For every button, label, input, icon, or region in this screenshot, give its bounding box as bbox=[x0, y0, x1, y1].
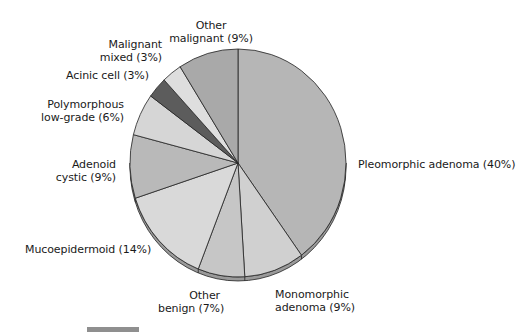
label-malignant-mixed: Malignant mixed (3%) bbox=[86, 38, 162, 64]
label-pleomorphic-adenoma: Pleomorphic adenoma (40%) bbox=[358, 158, 515, 171]
label-line: Adenoid bbox=[50, 158, 116, 171]
label-acinic-cell: Acinic cell (3%) bbox=[66, 69, 149, 82]
label-other-malignant: Other malignant (9%) bbox=[166, 19, 256, 45]
label-line: Monomorphic bbox=[275, 288, 355, 301]
label-polymorphous-low-grade: Polymorphous low-grade (6%) bbox=[28, 98, 124, 124]
label-line: Malignant bbox=[86, 38, 162, 51]
label-line: malignant (9%) bbox=[166, 32, 256, 45]
pie-slices bbox=[130, 49, 346, 277]
label-line: adenoma (9%) bbox=[275, 301, 355, 314]
label-other-benign: Other benign (7%) bbox=[158, 289, 220, 315]
label-line: benign (7%) bbox=[158, 302, 220, 315]
label-line: Other bbox=[158, 289, 220, 302]
label-line: Polymorphous bbox=[28, 98, 124, 111]
label-line: low-grade (6%) bbox=[28, 111, 124, 124]
label-mucoepidermoid: Mucoepidermoid (14%) bbox=[25, 243, 151, 256]
label-line: cystic (9%) bbox=[50, 171, 116, 184]
scale-bar bbox=[87, 327, 139, 332]
label-line: mixed (3%) bbox=[86, 51, 162, 64]
label-monomorphic-adenoma: Monomorphic adenoma (9%) bbox=[275, 288, 355, 314]
label-line: Other bbox=[166, 19, 256, 32]
label-adenoid-cystic: Adenoid cystic (9%) bbox=[50, 158, 116, 184]
